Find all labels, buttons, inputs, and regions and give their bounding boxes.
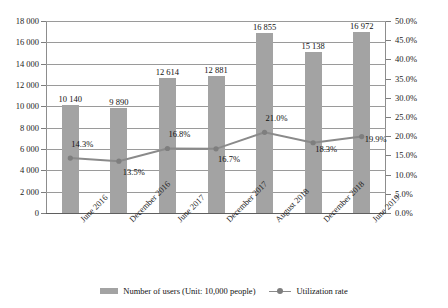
y-tick-right: [386, 98, 391, 99]
y-axis-right-label: 5.0%: [395, 189, 413, 199]
x-axis-category-label: June 2016: [78, 217, 85, 224]
line-value-label: 16.8%: [156, 129, 202, 139]
legend-item-utilization: Utilization rate: [269, 286, 347, 296]
y-tick-right: [386, 79, 391, 80]
line-value-label: 21.0%: [254, 113, 300, 123]
y-axis-left-label: 16 000: [16, 37, 39, 47]
legend-item-users: Number of users (Unit: 10,000 people): [100, 286, 255, 296]
y-axis-right-label: 40.0%: [395, 54, 417, 64]
line-marker-swatch-icon: [269, 288, 291, 295]
chart-legend: Number of users (Unit: 10,000 people) Ut…: [0, 286, 448, 296]
legend-label-utilization: Utilization rate: [296, 286, 347, 296]
y-axis-right-label: 35.0%: [395, 74, 417, 84]
y-tick-right: [386, 117, 391, 118]
chart-container: 10 1409 89012 61412 88116 85515 13816 97…: [0, 0, 448, 308]
y-axis-right-label: 45.0%: [395, 35, 417, 45]
y-axis-right-label: 50.0%: [395, 16, 417, 26]
y-axis-right-label: 30.0%: [395, 93, 417, 103]
y-tick-right: [386, 155, 391, 156]
line-marker: [213, 146, 218, 151]
line-value-label: 18.3%: [303, 144, 349, 154]
y-axis-left-label: 10 000: [16, 101, 39, 111]
y-tick-right: [386, 194, 391, 195]
y-axis-right-label: 20.0%: [395, 131, 417, 141]
y-axis-left-label: 4 000: [20, 165, 39, 175]
y-axis-left-label: 14 000: [16, 59, 39, 69]
plot-area: 10 1409 89012 61412 88116 85515 13816 97…: [46, 21, 386, 213]
x-axis-category-label: June 2017: [175, 217, 182, 224]
y-tick-right: [386, 175, 391, 176]
y-tick-right: [386, 59, 391, 60]
utilization-rate-line-series: [46, 21, 386, 213]
line-marker: [165, 146, 170, 151]
x-axis-category-label: December 2016: [127, 217, 134, 224]
y-axis-left-label: 6 000: [20, 144, 39, 154]
bar-swatch-icon: [100, 288, 118, 294]
y-axis-left-label: 8 000: [20, 123, 39, 133]
line-marker: [68, 155, 73, 160]
y-axis-left-label: 12 000: [16, 80, 39, 90]
y-axis-left-label: 18 000: [16, 16, 39, 26]
x-axis-category-label: December 2017: [224, 217, 231, 224]
x-axis-category-label: June 2019: [370, 217, 377, 224]
line-value-label: 14.3%: [59, 139, 105, 149]
line-marker: [262, 130, 267, 135]
line-value-label: 19.9%: [353, 134, 399, 144]
chart-title: [0, 0, 448, 3]
x-axis-category-label: December 2018: [321, 217, 328, 224]
line-value-label: 13.5%: [111, 167, 157, 177]
y-axis-right-label: 15.0%: [395, 150, 417, 160]
y-axis-right-label: 10.0%: [395, 170, 417, 180]
line-value-label: 16.7%: [206, 154, 252, 164]
legend-label-users: Number of users (Unit: 10,000 people): [123, 286, 255, 296]
y-tick-right: [386, 40, 391, 41]
line-marker: [116, 159, 121, 164]
y-axis-right-label: 25.0%: [395, 112, 417, 122]
y-axis-left-label: 2 000: [20, 187, 39, 197]
x-axis-category-label: August 2018: [273, 217, 280, 224]
y-axis-left-label: 0: [35, 208, 39, 218]
y-axis-right-label: 0.0%: [395, 208, 413, 218]
